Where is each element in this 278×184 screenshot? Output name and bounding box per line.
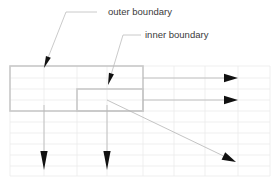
diagram-canvas: outer boundary inner boundary [0,0,278,184]
boundary-rectangles [10,66,143,111]
inner-boundary-leader-arrowhead [108,73,114,85]
label-outer-boundary: outer boundary [108,6,172,17]
outflow-arrow-upper-head [224,74,238,82]
boundary-mesh-diagram: outer boundary inner boundary [0,0,278,184]
downflow-arrow-middle-head [103,151,110,170]
inner-boundary-leader-diagonal [111,35,123,74]
diagonal-arrow-head [222,152,236,162]
label-inner-boundary: inner boundary [145,29,209,40]
downflow-arrow-left-head [40,151,47,170]
label-leader-lines [44,12,141,85]
diagonal-arrow-tail [107,100,223,156]
outflow-arrow-lower-head [224,96,238,104]
outer-boundary-leader-diagonal [48,12,66,57]
